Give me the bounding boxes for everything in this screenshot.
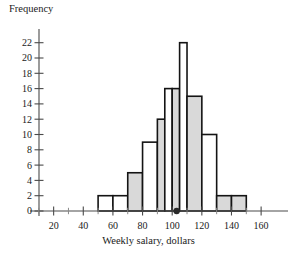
- histogram-bar: [231, 196, 246, 211]
- histogram-bar: [143, 142, 158, 211]
- histogram-bar: [98, 196, 113, 211]
- x-tick-label: 140: [224, 220, 239, 231]
- y-tick-label: 8: [27, 144, 32, 155]
- y-tick-labels: 0246810121416182022: [22, 37, 32, 216]
- histogram-bar: [113, 196, 128, 211]
- x-tick-label: 160: [254, 220, 269, 231]
- x-tick-label: 120: [194, 220, 209, 231]
- histogram-bar: [128, 173, 143, 211]
- histogram-bar: [172, 89, 179, 211]
- histogram-bar: [217, 196, 232, 211]
- histogram-bar: [202, 135, 217, 212]
- y-tick-label: 18: [22, 68, 32, 79]
- histogram-bar: [187, 96, 202, 211]
- y-tick-label: 2: [27, 190, 32, 201]
- histogram-bar: [157, 119, 164, 211]
- y-tick-label: 22: [22, 37, 32, 48]
- y-tick-label: 14: [22, 98, 32, 109]
- x-tick-labels: 20406080100120140160: [49, 220, 269, 231]
- marker-group: [173, 208, 179, 214]
- x-tick-label: 40: [78, 220, 88, 231]
- y-tick-label: 10: [22, 129, 32, 140]
- y-tick-label: 4: [27, 175, 32, 186]
- bars-group: [98, 43, 246, 211]
- y-tick-label: 12: [22, 114, 32, 125]
- x-tick-label: 20: [49, 220, 59, 231]
- y-tick-label: 16: [22, 83, 32, 94]
- x-tick-label: 60: [108, 220, 118, 231]
- x-axis-title: Weekly salary, dollars: [0, 234, 297, 247]
- median-marker-dot: [173, 208, 179, 214]
- x-tick-label: 80: [138, 220, 148, 231]
- x-tick-label: 100: [165, 220, 180, 231]
- y-tick-label: 6: [27, 160, 32, 171]
- y-tick-label: 0: [27, 205, 32, 216]
- histogram-chart: 0246810121416182022 20406080100120140160…: [0, 0, 297, 257]
- histogram-bar: [180, 43, 187, 211]
- y-tick-label: 20: [22, 52, 32, 63]
- y-axis-title: Frequency: [9, 2, 53, 15]
- histogram-bar: [165, 89, 172, 211]
- chart-canvas: 0246810121416182022 20406080100120140160: [0, 0, 297, 257]
